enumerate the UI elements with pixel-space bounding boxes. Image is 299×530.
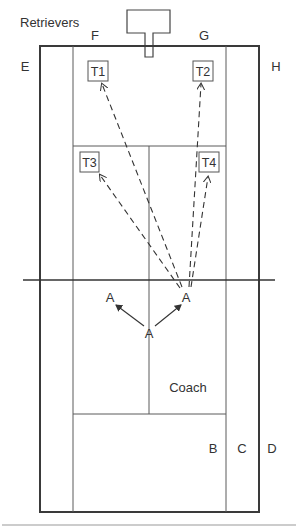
label-E: E [21, 59, 30, 74]
arrow-to-right-A [155, 305, 181, 326]
label-coach: Coach [169, 380, 207, 395]
target-label: T4 [202, 156, 217, 170]
target-T2: T2 [193, 61, 213, 81]
player-A-right: A [182, 290, 191, 305]
label-B: B [209, 441, 218, 456]
label-G: G [199, 28, 209, 43]
path-to-T1 [102, 84, 182, 287]
target-label: T2 [196, 65, 211, 79]
court-diagram: T1 T2 T3 T4 A A A Retrievers E F G H Coa… [0, 0, 299, 530]
label-F: F [91, 28, 99, 43]
path-to-T2 [189, 84, 201, 287]
path-to-T4 [191, 177, 208, 287]
player-A-center: A [145, 326, 154, 341]
path-to-T3 [100, 175, 180, 288]
label-retrievers: Retrievers [20, 15, 80, 30]
arrow-to-left-A [116, 305, 144, 326]
target-T1: T1 [88, 61, 108, 81]
target-label: T3 [82, 156, 97, 170]
net-post-icon [127, 10, 170, 57]
label-C: C [237, 441, 246, 456]
target-T3: T3 [80, 152, 99, 172]
label-D: D [267, 441, 276, 456]
target-label: T1 [91, 65, 106, 79]
player-A-left: A [106, 290, 115, 305]
ball-paths [100, 84, 208, 288]
target-T4: T4 [199, 152, 219, 172]
label-H: H [271, 59, 280, 74]
